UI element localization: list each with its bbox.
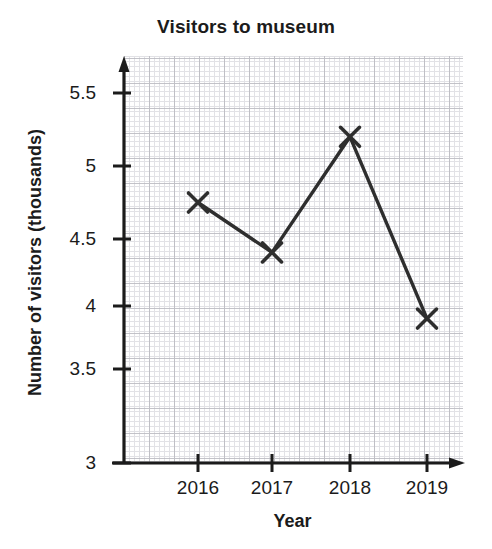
data-point-marker-2016 (189, 193, 208, 212)
series-layer (0, 0, 492, 549)
data-markers-group (189, 127, 437, 328)
data-line-visitors (198, 137, 427, 319)
data-point-marker-2019 (418, 309, 437, 328)
data-point-marker-2017 (263, 243, 282, 262)
data-point-marker-2018 (341, 127, 360, 146)
x-axis-title: Year (0, 511, 492, 532)
chart-figure: Visitors to museum Number of visitors (t… (0, 0, 492, 549)
